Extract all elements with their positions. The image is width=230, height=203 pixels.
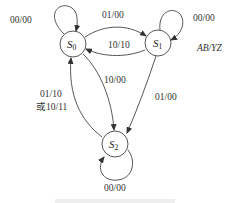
edge-s0-s1 [85, 27, 146, 37]
edge-s1-s2 [127, 56, 156, 133]
label-s1-s0: 10/10 [108, 40, 130, 50]
edge-s2-s0 [71, 58, 102, 137]
label-s2-s0-alt: 或10/11 [36, 101, 68, 112]
state-s0: S0 [60, 31, 86, 57]
figure-caption-cropped [55, 199, 175, 203]
label-s0-s2: 10/00 [104, 75, 126, 85]
state-diagram: 00/00 01/00 10/10 00/00 AB/YZ 10/00 01/0… [0, 0, 230, 203]
edge-s0-s0 [55, 6, 78, 34]
label-s0-s1: 01/00 [102, 10, 124, 20]
label-s1-s1: 00/00 [193, 13, 215, 23]
legend-text: AB/YZ [196, 43, 223, 53]
edge-s0-s2 [83, 54, 114, 130]
label-s0-s0: 00/00 [10, 15, 32, 25]
state-s1: S1 [145, 30, 171, 56]
label-s2-s2: 00/00 [104, 183, 126, 193]
label-s2-s0: 01/10 [40, 89, 62, 99]
state-s2: S2 [102, 131, 128, 157]
label-s1-s2: 01/00 [155, 92, 177, 102]
